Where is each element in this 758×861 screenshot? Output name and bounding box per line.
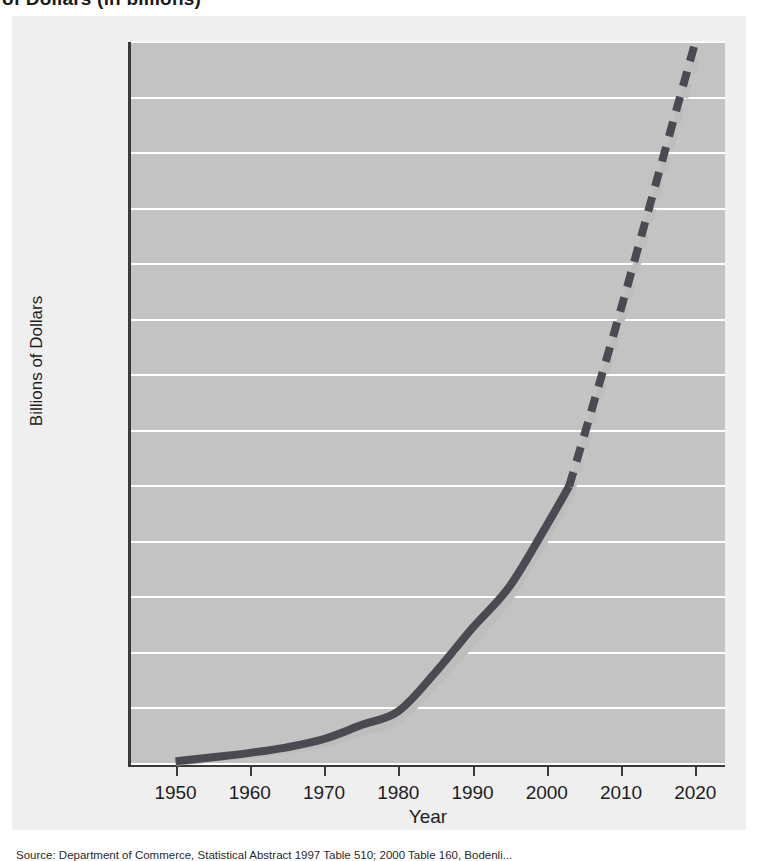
x-tick-mark (176, 766, 178, 776)
x-tick-mark (547, 766, 549, 776)
x-axis-title: Year (131, 806, 725, 828)
x-tick-label: 1990 (433, 782, 513, 804)
x-tick-mark (473, 766, 475, 776)
x-tick-mark (250, 766, 252, 776)
x-tick-mark (621, 766, 623, 776)
x-tick-label: 2020 (655, 782, 735, 804)
source-note: Source: Department of Commerce, Statisti… (0, 848, 758, 861)
x-tick-label: 2010 (581, 782, 661, 804)
x-tick-label: 1960 (210, 782, 290, 804)
y-axis-title: Billions of Dollars (26, 0, 48, 722)
source-note-strip: Source: Department of Commerce, Statisti… (0, 848, 758, 861)
series-line-historical (176, 486, 570, 761)
x-tick-label: 2000 (507, 782, 587, 804)
x-tick-label: 1970 (284, 782, 364, 804)
plot-area: 01002003004005006007008009001,0001,1001,… (131, 42, 725, 764)
chart-title-strip: of Dollars (in billions) (0, 0, 758, 12)
series-layer (131, 42, 725, 764)
x-tick-mark (398, 766, 400, 776)
x-tick-mark (695, 766, 697, 776)
x-tick-label: 1950 (136, 782, 216, 804)
chart-figure: of Dollars (in billions) Billions of Dol… (0, 0, 758, 861)
x-tick-label: 1980 (358, 782, 438, 804)
x-tick-mark (324, 766, 326, 776)
page-title: of Dollars (in billions) (0, 0, 758, 12)
